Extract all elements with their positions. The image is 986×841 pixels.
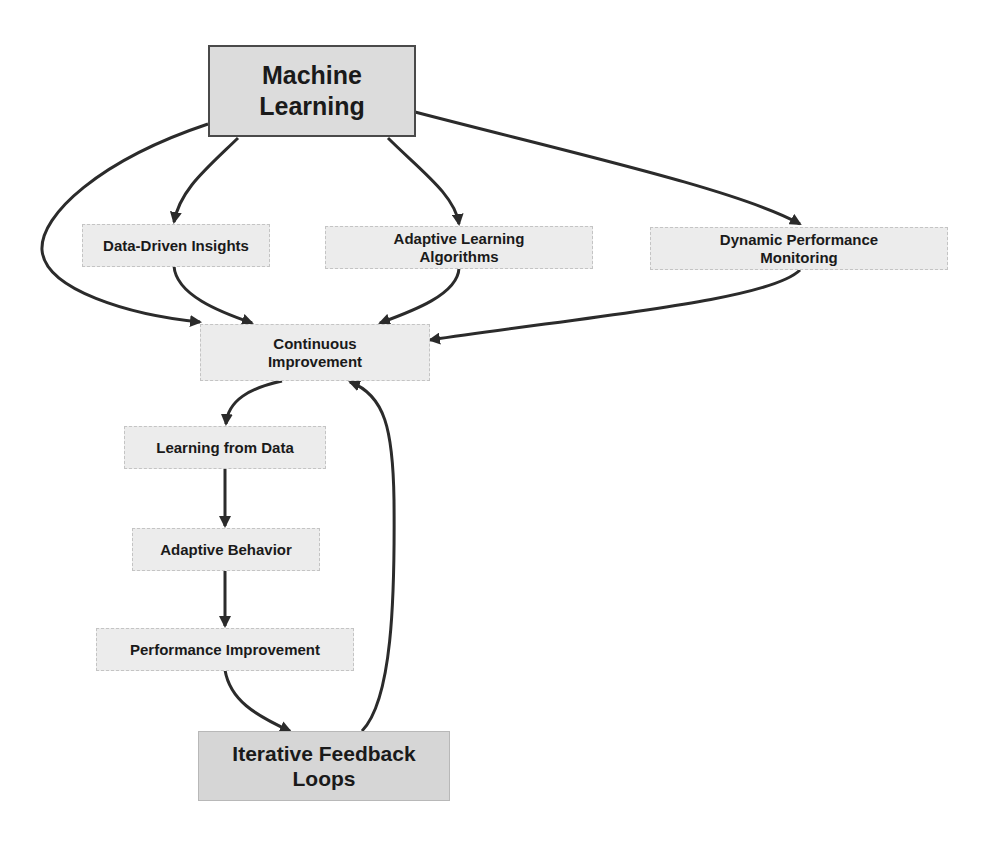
edge-adaptive-learning-algorithms-to-continuous-improvement xyxy=(380,268,459,323)
node-adaptive-learning-algorithms: Adaptive Learning Algorithms xyxy=(325,226,593,269)
edge-data-driven-insights-to-continuous-improvement xyxy=(174,266,252,323)
edge-iterative-feedback-loops-to-continuous-improvement xyxy=(350,382,394,731)
node-continuous-improvement: Continuous Improvement xyxy=(200,324,430,381)
edges-layer xyxy=(0,0,986,841)
node-machine-learning: Machine Learning xyxy=(208,45,416,137)
node-performance-improvement: Performance Improvement xyxy=(96,628,354,671)
edge-dynamic-performance-monitoring-to-continuous-improvement xyxy=(430,270,800,340)
node-iterative-feedback-loops: Iterative Feedback Loops xyxy=(198,731,450,801)
node-dynamic-performance-monitoring: Dynamic Performance Monitoring xyxy=(650,227,948,270)
edge-ml-to-continuous-improvement xyxy=(42,124,208,322)
node-learning-from-data: Learning from Data xyxy=(124,426,326,469)
node-data-driven-insights: Data-Driven Insights xyxy=(82,224,270,267)
edge-ml-to-data-driven-insights xyxy=(174,138,238,222)
edge-continuous-improvement-to-learning-from-data xyxy=(226,381,282,424)
edge-ml-to-adaptive-learning-algorithms xyxy=(388,138,459,224)
node-adaptive-behavior: Adaptive Behavior xyxy=(132,528,320,571)
edge-performance-improvement-to-iterative-feedback-loops xyxy=(225,670,290,731)
edge-ml-to-dynamic-performance-monitoring xyxy=(415,112,800,224)
